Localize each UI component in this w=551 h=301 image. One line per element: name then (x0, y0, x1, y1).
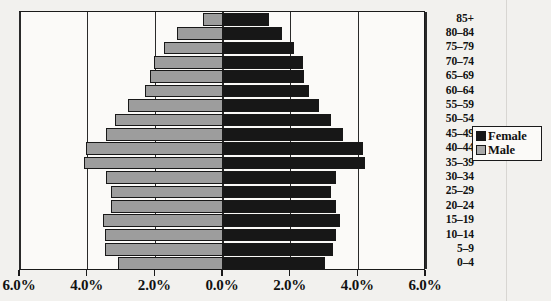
legend-item-female[interactable]: Female (476, 129, 538, 143)
bar-row (20, 13, 424, 26)
bar-male-40-44 (86, 142, 223, 155)
bar-female-45-49 (223, 128, 343, 141)
bar-female-80-84 (223, 27, 282, 40)
legend-swatch-female-icon (476, 131, 486, 141)
bar-male-25-29 (111, 186, 223, 199)
x-tick (18, 270, 20, 276)
age-group-label: 10–14 (428, 229, 474, 240)
bar-male-5-9 (105, 243, 223, 256)
bar-female-15-19 (223, 214, 340, 227)
x-tick (357, 270, 359, 276)
bar-row (20, 70, 424, 83)
bar-female-0-4 (223, 257, 325, 270)
age-group-label: 30–34 (428, 171, 474, 182)
bar-rows (20, 12, 424, 269)
bar-female-5-9 (223, 243, 333, 256)
x-tick-label: 4.0% (52, 277, 122, 294)
bar-female-50-54 (223, 114, 331, 127)
age-group-label: 50–54 (428, 113, 474, 124)
legend: Female Male (472, 126, 542, 161)
bar-row (20, 214, 424, 227)
x-tick-label: 2.0% (255, 277, 325, 294)
age-group-label: 85+ (428, 13, 474, 24)
age-group-label: 70–74 (428, 56, 474, 67)
bar-male-45-49 (106, 128, 223, 141)
age-group-label: 55–59 (428, 99, 474, 110)
age-group-label: 25–29 (428, 185, 474, 196)
bar-female-30-34 (223, 171, 336, 184)
bar-row (20, 243, 424, 256)
bar-row (20, 128, 424, 141)
age-group-label: 60–64 (428, 85, 474, 96)
bar-male-80-84 (177, 27, 223, 40)
gridline-female-6 (425, 12, 427, 269)
bar-row (20, 99, 424, 112)
plot-area (19, 11, 425, 270)
x-tick (221, 270, 223, 276)
age-group-label: 0–4 (428, 257, 474, 268)
bar-male-30-34 (106, 171, 223, 184)
x-tick (154, 270, 156, 276)
bar-male-85+ (203, 13, 223, 26)
bar-male-0-4 (118, 257, 223, 270)
bar-row (20, 157, 424, 170)
age-group-label: 15–19 (428, 214, 474, 225)
bar-male-70-74 (154, 56, 223, 69)
bar-female-25-29 (223, 186, 331, 199)
population-pyramid-figure: 6.0%4.0%2.0%0.0%2.0%4.0%6.0% 0–45–910–14… (0, 0, 551, 301)
x-tick-label: 2.0% (119, 277, 189, 294)
bar-row (20, 171, 424, 184)
x-tick (289, 270, 291, 276)
bar-male-35-39 (84, 157, 223, 170)
age-group-label: 40–44 (428, 142, 474, 153)
bar-row (20, 142, 424, 155)
x-tick (424, 270, 426, 276)
bar-male-65-69 (150, 70, 223, 83)
legend-item-male[interactable]: Male (476, 143, 538, 157)
age-group-label: 80–84 (428, 27, 474, 38)
bar-female-55-59 (223, 99, 319, 112)
age-group-label: 75–79 (428, 41, 474, 52)
bar-male-20-24 (111, 200, 223, 213)
bar-row (20, 85, 424, 98)
age-group-label: 65–69 (428, 70, 474, 81)
x-tick-label: 4.0% (322, 277, 392, 294)
bar-female-20-24 (223, 200, 336, 213)
age-group-axis: 0–45–910–1415–1920–2425–2930–3435–3940–4… (428, 11, 474, 270)
bar-female-60-64 (223, 85, 309, 98)
legend-label-female: Female (488, 130, 527, 142)
bar-row (20, 200, 424, 213)
bar-male-15-19 (103, 214, 223, 227)
bar-male-60-64 (145, 85, 223, 98)
bar-row (20, 27, 424, 40)
bar-female-65-69 (223, 70, 304, 83)
x-tick-label: 0.0% (187, 277, 257, 294)
bar-female-40-44 (223, 142, 363, 155)
bar-row (20, 42, 424, 55)
bar-female-10-14 (223, 229, 336, 242)
bar-male-10-14 (105, 229, 223, 242)
legend-label-male: Male (488, 144, 515, 156)
legend-swatch-male-icon (476, 145, 486, 155)
x-tick (86, 270, 88, 276)
bar-male-50-54 (115, 114, 223, 127)
bar-row (20, 114, 424, 127)
bar-male-75-79 (164, 42, 223, 55)
bar-row (20, 229, 424, 242)
x-tick-label: 6.0% (0, 277, 54, 294)
bar-female-35-39 (223, 157, 365, 170)
age-group-label: 35–39 (428, 157, 474, 168)
bar-female-85+ (223, 13, 269, 26)
bar-row (20, 257, 424, 270)
age-group-label: 5–9 (428, 243, 474, 254)
bar-female-70-74 (223, 56, 303, 69)
bar-male-55-59 (128, 99, 223, 112)
age-group-label: 45–49 (428, 128, 474, 139)
bar-row (20, 56, 424, 69)
x-tick-label: 6.0% (390, 277, 460, 294)
bar-row (20, 186, 424, 199)
age-group-label: 20–24 (428, 200, 474, 211)
bar-female-75-79 (223, 42, 294, 55)
